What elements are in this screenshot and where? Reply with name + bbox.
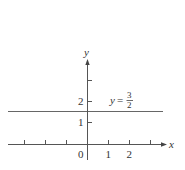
graph: y x 2 1 0 1 2 y = 3 2 — [0, 0, 185, 170]
eq-sign: = — [117, 94, 123, 106]
line-equation-label: y = 3 2 — [109, 90, 133, 110]
x-axis-label: x — [168, 138, 174, 150]
x-tick-label-2: 2 — [127, 148, 133, 160]
eq-numerator: 3 — [127, 90, 132, 100]
origin-label: 0 — [78, 148, 84, 160]
y-axis-arrow-icon — [85, 59, 89, 65]
y-tick-label-1: 1 — [78, 116, 84, 128]
y-axis-label: y — [83, 46, 89, 58]
x-tick-label-1: 1 — [106, 148, 112, 160]
y-tick-label-2: 2 — [78, 95, 84, 107]
y-ticks — [88, 81, 93, 123]
x-axis-arrow-icon — [161, 142, 167, 146]
eq-denominator: 2 — [127, 100, 132, 110]
eq-lhs: y — [109, 94, 115, 106]
